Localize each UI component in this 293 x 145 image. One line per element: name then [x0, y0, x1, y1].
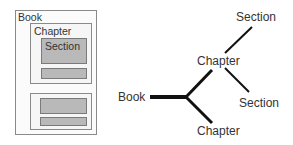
tree-section-top-label: Section — [236, 11, 276, 23]
section-top-edge — [225, 27, 252, 53]
tree-book-label: Book — [118, 91, 145, 103]
tree-chapter-bottom-label: Chapter — [197, 125, 240, 137]
chapter-top-edge — [186, 70, 212, 97]
tree-section-bottom-label: Section — [239, 97, 279, 109]
tree-chapter-top-label: Chapter — [197, 55, 240, 67]
section-bottom-edge — [225, 68, 249, 92]
chapter-bottom-edge — [186, 97, 212, 123]
